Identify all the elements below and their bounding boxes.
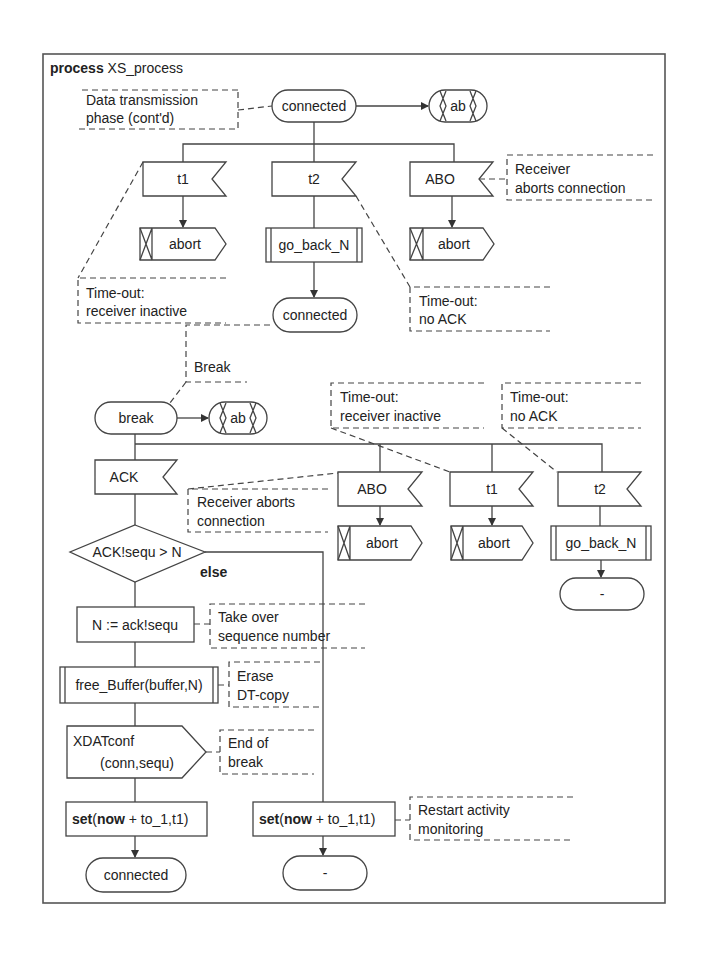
svg-text:phase (cont'd): phase (cont'd) [86,110,174,126]
branch-lines-bottom [135,434,602,472]
svg-text:ABO: ABO [425,171,455,187]
input-ack[interactable]: ACK [95,460,177,494]
svg-text:abort: abort [169,236,201,252]
next-state-dash-bottom[interactable]: - [283,856,367,890]
svg-text:sequence number: sequence number [218,628,330,644]
svg-text:t2: t2 [594,481,606,497]
comment-receiver-aborts-top: Receiver aborts connection [479,155,653,200]
svg-text:go_back_N: go_back_N [279,237,350,253]
save-ab-bottom[interactable]: ab [209,402,267,434]
comment-timeout-noack-bottom: Time-out: no ACK [502,383,641,472]
comment-erase: Erase DT-copy [218,662,320,707]
svg-text:set(now + to_1,t1): set(now + to_1,t1) [72,811,188,827]
state-connected[interactable]: connected [272,90,356,122]
svg-text:monitoring: monitoring [418,821,483,837]
svg-text:set(now + to_1,t1): set(now + to_1,t1) [259,811,375,827]
svg-text:free_Buffer(buffer,N): free_Buffer(buffer,N) [75,677,202,693]
svg-text:Receiver: Receiver [515,161,571,177]
next-state-connected-bottom[interactable]: connected [86,858,186,892]
next-state-dash-right[interactable]: - [560,578,644,610]
svg-text:Restart activity: Restart activity [418,802,510,818]
svg-text:connected: connected [282,98,347,114]
svg-text:t1: t1 [177,171,189,187]
svg-text:XDATconf: XDATconf [73,733,134,749]
input-t1-top[interactable]: t1 [143,162,226,196]
input-t1-bottom[interactable]: t1 [450,472,533,506]
svg-text:break: break [228,754,264,770]
svg-text:Take over: Take over [218,609,279,625]
svg-text:no ACK: no ACK [510,408,558,424]
svg-text:Receiver aborts: Receiver aborts [197,494,295,510]
sdl-process-diagram: process XS_process Data transmission pha… [0,0,701,956]
output-xdatconf[interactable]: XDATconf (conn,sequ) [67,726,206,778]
svg-text:Time-out:: Time-out: [510,389,569,405]
svg-text:Data transmission: Data transmission [86,92,198,108]
else-label: else [200,564,227,580]
svg-text:aborts connection: aborts connection [515,180,626,196]
decision-ack-sequ[interactable]: ACK!sequ > N [70,525,205,582]
procedure-free-buffer[interactable]: free_Buffer(buffer,N) [60,667,218,703]
svg-text:(conn,sequ): (conn,sequ) [100,755,174,771]
process-title: process XS_process [50,60,183,76]
comment-timeout-noack-top: Time-out: no ACK [356,196,550,331]
comment-data-transmission: Data transmission phase (cont'd) [79,90,272,129]
svg-text:ab: ab [230,410,246,426]
svg-text:ab: ab [450,98,466,114]
svg-text:no ACK: no ACK [419,311,467,327]
output-abort-t1-top[interactable]: abort [140,228,226,260]
comment-take-over: Take over sequence number [194,604,365,648]
next-state-connected-top[interactable]: connected [273,298,357,332]
svg-text:t1: t1 [486,481,498,497]
comment-end-break: End of break [206,730,314,774]
svg-text:Time-out:: Time-out: [340,389,399,405]
procedure-go-back-n-top[interactable]: go_back_N [266,228,362,262]
svg-text:abort: abort [366,535,398,551]
output-abort-abo-bottom[interactable]: abort [338,526,422,560]
input-t2-bottom[interactable]: t2 [558,472,641,506]
state-break[interactable]: break [95,402,177,434]
input-abo-bottom[interactable]: ABO [338,472,422,506]
output-abort-t1-bottom[interactable]: abort [451,526,533,560]
svg-text:abort: abort [478,535,510,551]
branch-lines-top [183,122,454,162]
svg-text:Erase: Erase [237,668,274,684]
svg-text:N := ack!sequ: N := ack!sequ [92,617,178,633]
svg-text:t2: t2 [308,171,320,187]
output-abort-abo-top[interactable]: abort [410,228,494,260]
svg-text:connected: connected [283,307,348,323]
comment-timeout-inactive-bottom: Time-out: receiver inactive [331,383,484,472]
svg-text:Break: Break [194,359,232,375]
svg-text:ACK: ACK [110,469,139,485]
else-branch-line [205,552,323,820]
comment-restart: Restart activity monitoring [395,797,573,840]
svg-text:receiver inactive: receiver inactive [340,408,441,424]
procedure-go-back-n-bottom[interactable]: go_back_N [551,526,651,560]
task-set-timer-right[interactable]: set(now + to_1,t1) [253,802,395,836]
svg-text:break: break [118,410,154,426]
svg-text:connected: connected [104,867,169,883]
save-ab-top[interactable]: ab [429,90,487,122]
svg-text:ACK!sequ > N: ACK!sequ > N [92,544,181,560]
task-assign-n[interactable]: N := ack!sequ [77,607,194,642]
comment-break: Break [170,325,270,403]
svg-text:receiver inactive: receiver inactive [86,303,187,319]
svg-text:Time-out:: Time-out: [86,285,145,301]
svg-text:connection: connection [197,513,265,529]
svg-text:ABO: ABO [357,481,387,497]
svg-text:Time-out:: Time-out: [419,293,478,309]
svg-text:go_back_N: go_back_N [566,535,637,551]
svg-text:-: - [323,865,328,881]
input-t2-top[interactable]: t2 [272,162,356,196]
svg-text:-: - [600,586,605,602]
svg-text:DT-copy: DT-copy [237,687,289,703]
comment-receiver-aborts-bottom: Receiver aborts connection [188,473,338,532]
svg-text:abort: abort [438,236,470,252]
task-set-timer-left[interactable]: set(now + to_1,t1) [66,802,207,836]
svg-text:End of: End of [228,735,269,751]
